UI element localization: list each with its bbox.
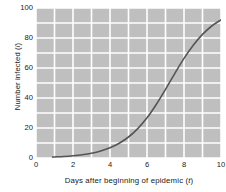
x-tick-label: 6 (135, 161, 159, 169)
x-tick-label: 2 (61, 161, 85, 169)
x-tick-label: 0 (24, 161, 48, 169)
x-tick-label: 4 (98, 161, 122, 169)
x-axis-title-text: Days after beginning of epidemic ( (65, 176, 189, 185)
plot-canvas (36, 8, 221, 158)
plot-area (36, 8, 221, 158)
x-axis-title-close: ) (191, 176, 194, 185)
x-tick-label: 10 (209, 161, 226, 169)
epidemic-infection-chart: Number infected (i) 100806040200 0246810… (0, 0, 226, 192)
x-tick-label: 8 (172, 161, 196, 169)
x-axis-title: Days after beginning of epidemic (t) (36, 176, 222, 185)
